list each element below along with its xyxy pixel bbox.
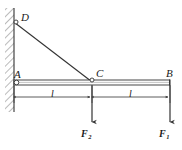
point-label-D: D (21, 12, 29, 23)
tie-rod-DC (15, 23, 92, 82)
point-label-B: B (166, 68, 173, 79)
dimension-label-AC: l (51, 89, 54, 99)
force-label-F2-subscript: 2 (88, 133, 91, 140)
wall-hatching (5, 8, 14, 112)
dimension-label-CB: l (129, 89, 132, 99)
joint-marker-C (90, 78, 94, 82)
pin-support-A (14, 80, 19, 85)
joint-marker-D (14, 20, 18, 24)
point-label-A: A (14, 69, 21, 80)
force-label-F2: F2 (81, 129, 91, 139)
force-label-F2-symbol: F (81, 128, 88, 139)
force-label-F1: F1 (159, 129, 169, 139)
point-label-C: C (96, 68, 103, 79)
force-label-F1-subscript: 1 (166, 133, 169, 140)
beam-diagram-figure: D A C B l l F2 F1 (0, 0, 182, 150)
force-label-F1-symbol: F (159, 128, 166, 139)
